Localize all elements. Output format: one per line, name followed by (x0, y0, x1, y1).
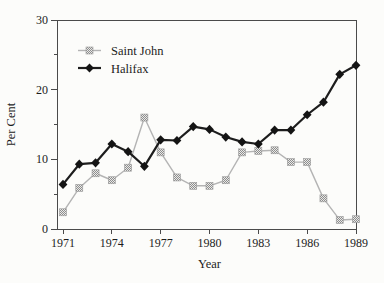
saint-john-marker (336, 216, 343, 223)
saint-john-marker (206, 182, 213, 189)
x-tick-label: 1971 (51, 236, 75, 250)
x-tick-label: 1986 (295, 236, 319, 250)
x-axis: 1971197419771980198319861989 (51, 229, 368, 250)
x-tick-label: 1980 (198, 236, 222, 250)
saint-john-marker (76, 184, 83, 191)
saint-john-marker (320, 195, 327, 202)
saint-john-marker (173, 174, 180, 181)
saint-john-marker (92, 170, 99, 177)
halifax-marker (221, 132, 230, 141)
saint-john-marker (271, 147, 278, 154)
halifax-marker (352, 61, 361, 70)
plot-border (57, 20, 356, 229)
halifax-marker (205, 125, 214, 134)
saint-john-marker (108, 177, 115, 184)
x-tick-label: 1977 (149, 236, 173, 250)
series-halifax (59, 61, 361, 189)
saint-john-marker (157, 149, 164, 156)
legend-marker-saint-john (86, 47, 93, 54)
x-tick-label: 1974 (100, 236, 124, 250)
y-axis-label: Per Cent (4, 102, 18, 146)
legend: Saint JohnHalifax (78, 44, 164, 76)
saint-john-marker (304, 159, 311, 166)
saint-john-marker (190, 182, 197, 189)
x-tick-label: 1983 (246, 236, 270, 250)
saint-john-marker (222, 177, 229, 184)
line-chart: 01020301971197419771980198319861989Per C… (0, 0, 384, 283)
legend-entry-saint-john: Saint John (78, 44, 164, 58)
saint-john-marker (287, 159, 294, 166)
saint-john-marker (125, 164, 132, 171)
legend-label-saint-john: Saint John (111, 44, 164, 58)
legend-label-halifax: Halifax (111, 62, 149, 76)
saint-john-marker (353, 216, 360, 223)
legend-marker-halifax (85, 63, 94, 72)
y-tick-label: 10 (36, 152, 48, 166)
chart-figure: 01020301971197419771980198319861989Per C… (0, 0, 384, 283)
saint-john-marker (141, 114, 148, 121)
halifax-marker (238, 137, 247, 146)
saint-john-marker (60, 209, 67, 216)
y-axis: 0102030 (36, 13, 57, 236)
y-tick-label: 20 (36, 83, 48, 97)
y-tick-label: 0 (42, 222, 48, 236)
x-axis-label: Year (198, 257, 222, 271)
legend-entry-halifax: Halifax (78, 62, 149, 76)
x-tick-label: 1989 (344, 236, 368, 250)
y-tick-label: 30 (36, 13, 48, 27)
saint-john-marker (239, 149, 246, 156)
